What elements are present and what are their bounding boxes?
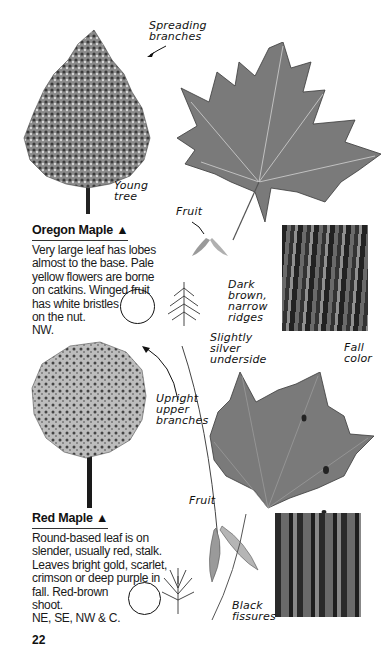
red-title: Red Maple ▲ [32, 511, 108, 529]
oregon-fruit-illustration [190, 218, 230, 258]
label-fruit: Fruit [189, 495, 215, 506]
oregon-bark-illustration [282, 225, 368, 331]
label-spreading-branches: Spreading branches [149, 20, 207, 42]
red-leaf-illustration [208, 372, 376, 520]
page-number: 22 [32, 634, 45, 646]
leaf-size-circle-icon [120, 289, 155, 324]
red-bark-illustration [275, 513, 361, 617]
red-tree-illustration [30, 340, 148, 510]
leaf-size-circle-icon [128, 582, 161, 615]
label-bark-dark-brown: Dark brown, narrow ridges [228, 279, 268, 323]
label-fall-color: Fall color [344, 342, 372, 364]
label-young-tree: Young tree [114, 180, 148, 202]
arrow-icon [146, 44, 168, 58]
oregon-leaf-illustration [175, 42, 387, 242]
tree-silhouette-icon [160, 566, 196, 616]
label-black-fissures: Black fissures [232, 600, 276, 622]
tree-silhouette-icon [166, 280, 202, 328]
label-upright-branches: Upright upper branches [156, 393, 208, 426]
label-fruit: Fruit [176, 206, 202, 217]
oregon-title: Oregon Maple ▲ [32, 223, 128, 241]
label-silver-underside: Slightly silver underside [210, 332, 267, 365]
